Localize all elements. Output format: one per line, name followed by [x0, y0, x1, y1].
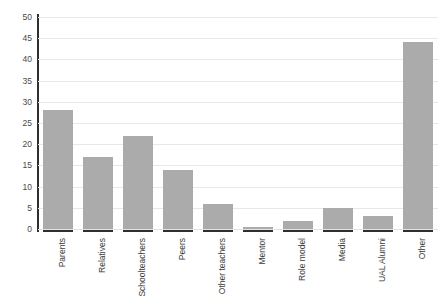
x-axis-tick [398, 230, 438, 233]
x-axis-tick-mark [83, 230, 113, 232]
x-axis-tick-mark [43, 230, 73, 232]
x-axis-category-label: Other [418, 238, 427, 259]
x-axis-category-label: UAL Alumni [378, 238, 387, 282]
x-axis-label-slot: Role model [278, 236, 318, 302]
y-axis-tick-label: 10 [23, 182, 32, 191]
bar-slot [398, 17, 438, 229]
bar[interactable] [83, 157, 113, 229]
x-axis-tick-mark [203, 230, 233, 232]
x-axis-label-slot: Parents [38, 236, 78, 302]
x-axis-tick [118, 230, 158, 233]
x-axis-tick-mark [163, 230, 193, 232]
bars-group [38, 17, 438, 229]
y-axis-tick-label: 0 [27, 225, 32, 234]
x-axis-labels: ParentsRelativesSchoolteachersPeersOther… [38, 236, 438, 302]
bar-slot [358, 17, 398, 229]
x-axis-tick-mark [323, 230, 353, 232]
y-axis-tick-label: 5 [27, 204, 32, 213]
plot-area: 05101520253035404550 [38, 17, 438, 229]
bar[interactable] [243, 227, 273, 229]
x-axis-label-slot: Mentor [238, 236, 278, 302]
x-axis-tick [78, 230, 118, 233]
y-axis-tick-label: 45 [23, 34, 32, 43]
x-axis-category-label: Relatives [98, 238, 107, 273]
bar[interactable] [43, 110, 73, 229]
x-axis-label-slot: Schoolteachers [118, 236, 158, 302]
x-axis-tick-mark [243, 230, 273, 232]
x-axis-tick-mark [123, 230, 153, 232]
bar-slot [38, 17, 78, 229]
y-axis-tick-label: 25 [23, 119, 32, 128]
x-axis-tick [278, 230, 318, 233]
x-axis-tick [358, 230, 398, 233]
x-axis-tick-mark [403, 230, 433, 232]
bar[interactable] [203, 204, 233, 229]
bar[interactable] [403, 42, 433, 229]
x-axis-tick-mark [283, 230, 313, 232]
x-axis-category-label: Other teachers [218, 238, 227, 294]
x-axis-label-slot: Peers [158, 236, 198, 302]
bar-chart: 05101520253035404550 ParentsRelativesSch… [0, 0, 446, 305]
x-axis-label-slot: UAL Alumni [358, 236, 398, 302]
y-axis-tick-label: 15 [23, 161, 32, 170]
x-axis-tick [38, 230, 78, 233]
bar-slot [238, 17, 278, 229]
x-axis-category-label: Parents [58, 238, 67, 267]
y-axis-tick-label: 40 [23, 55, 32, 64]
bar-slot [78, 17, 118, 229]
bar-slot [118, 17, 158, 229]
x-axis-label-slot: Other teachers [198, 236, 238, 302]
x-axis-category-label: Media [338, 238, 347, 261]
bar[interactable] [163, 170, 193, 229]
x-axis-label-slot: Media [318, 236, 358, 302]
x-axis-category-label: Schoolteachers [138, 238, 147, 297]
x-axis-tick [318, 230, 358, 233]
y-axis-tick-label: 50 [23, 13, 32, 22]
bar[interactable] [123, 136, 153, 229]
x-axis-tick [198, 230, 238, 233]
x-axis-category-label: Mentor [258, 238, 267, 264]
x-axis-label-slot: Other [398, 236, 438, 302]
x-axis-tick-mark [363, 230, 393, 232]
bar[interactable] [283, 221, 313, 229]
x-axis-label-slot: Relatives [78, 236, 118, 302]
x-axis-category-label: Peers [178, 238, 187, 260]
bar-slot [318, 17, 358, 229]
y-axis-tick-label: 30 [23, 98, 32, 107]
y-axis-tick-label: 35 [23, 76, 32, 85]
y-axis-tick-label: 20 [23, 140, 32, 149]
x-axis [38, 230, 438, 233]
bar[interactable] [363, 216, 393, 229]
bar[interactable] [323, 208, 353, 229]
bar-slot [278, 17, 318, 229]
x-axis-tick [238, 230, 278, 233]
bar-slot [198, 17, 238, 229]
x-axis-tick [158, 230, 198, 233]
bar-slot [158, 17, 198, 229]
x-axis-category-label: Role model [298, 238, 307, 281]
